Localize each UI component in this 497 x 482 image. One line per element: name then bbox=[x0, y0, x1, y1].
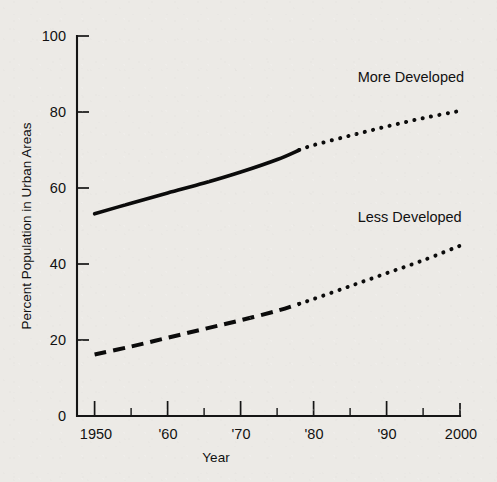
more-developed-observed-line bbox=[95, 150, 300, 214]
series-annotation-more-developed: More Developed bbox=[358, 69, 464, 85]
y-tick-label-40: 40 bbox=[50, 256, 66, 272]
more-developed-projected-line bbox=[299, 111, 460, 150]
x-axis-tick-labels: 1950 '60 '70 '80 '90 2000 bbox=[80, 426, 477, 442]
series-more-developed bbox=[95, 111, 460, 214]
y-tick-label-100: 100 bbox=[42, 28, 66, 44]
series-less-developed bbox=[95, 246, 460, 355]
y-axis-title: Percent Population in Urban Areas bbox=[19, 122, 34, 329]
x-tick-label-1950: 1950 bbox=[80, 426, 112, 442]
y-tick-label-0: 0 bbox=[58, 408, 66, 424]
less-developed-observed-line bbox=[95, 304, 300, 355]
x-axis-title: Year bbox=[202, 450, 230, 465]
axis-frame bbox=[77, 36, 460, 416]
x-tick-label-1960: '60 bbox=[159, 426, 178, 442]
chart-figure: 100 80 60 40 20 0 1950 '60 '70 '80 '90 bbox=[0, 0, 497, 482]
y-axis-tick-labels: 100 80 60 40 20 0 bbox=[42, 28, 66, 424]
axis-lines bbox=[77, 36, 460, 416]
x-axis-ticks bbox=[95, 401, 424, 416]
y-tick-label-60: 60 bbox=[50, 180, 66, 196]
x-tick-label-1970: '70 bbox=[232, 426, 251, 442]
less-developed-projected-line bbox=[299, 246, 460, 304]
y-tick-label-80: 80 bbox=[50, 104, 66, 120]
x-tick-label-2000: 2000 bbox=[445, 426, 477, 442]
x-tick-label-1990: '90 bbox=[378, 426, 397, 442]
y-tick-label-20: 20 bbox=[50, 332, 66, 348]
series-annotation-less-developed: Less Developed bbox=[358, 209, 462, 225]
chart-canvas: 100 80 60 40 20 0 1950 '60 '70 '80 '90 bbox=[0, 0, 497, 482]
x-tick-label-1980: '80 bbox=[305, 426, 324, 442]
y-axis-ticks bbox=[77, 112, 89, 340]
